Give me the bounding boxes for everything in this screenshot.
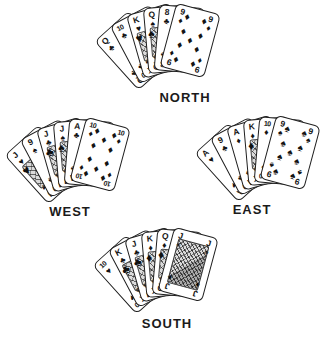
suit-pip: ♦ xyxy=(103,158,111,169)
suit-pip: ♦ xyxy=(186,35,194,46)
suit-pip: ♠ xyxy=(272,166,280,177)
hand-east: A♥A♥♥♥♥9♣9♣♣♣♣A♦A♦♦♦♦K♦K♦♦10♦10♦♦♦♦9♠9♠9… xyxy=(196,112,336,217)
card-index: 10♥ xyxy=(97,258,116,277)
suit-pip: ♦ xyxy=(183,12,191,23)
suit-pip: ♦ xyxy=(172,54,180,65)
hand-west: J♥J♥♥9♠9♠♠♠♠J♣J♣♣J♠J♠♠A♣A♣♣♣♣10♦10♦10♦10… xyxy=(6,114,146,219)
suit-pip: ♠ xyxy=(280,138,288,149)
suit-pip: ♠ xyxy=(297,142,305,153)
hand-label-north: NORTH xyxy=(110,90,260,105)
suit-pip: ♠ xyxy=(283,124,291,135)
suit-pip: ♠ xyxy=(148,27,155,40)
suit-pip: ♦ xyxy=(193,44,201,55)
suit-pip: ♦ xyxy=(82,168,90,179)
suit-pip: ♠ xyxy=(286,147,294,158)
suit-pip: ♦ xyxy=(107,145,115,156)
suit-pip: ♠ xyxy=(276,152,284,163)
card-fan-east: A♥A♥♥♥♥9♣9♣♣♣♣A♦A♦♦♦♦K♦K♦♦10♦10♦♦♦♦9♠9♠9… xyxy=(196,112,336,202)
suit-pip: ♦ xyxy=(176,40,184,51)
hand-north: Q♣Q♣♣♣♣10♣10♣♣♣♣K♥K♥♥Q♠Q♠♠8♣8♣♣♣♣9♦9♦9♦9… xyxy=(96,0,246,107)
card-fan-south: 10♥10♥♥♥♥K♣K♣♣J♣J♣♣K♦K♦♦Q♦Q♦♦J♦J♦J♦J♦ xyxy=(94,224,244,316)
suit-pip: ♦ xyxy=(180,26,188,37)
card-fan-west: J♥J♥♥9♠9♠♠♠♠J♣J♣♣J♠J♠♠A♣A♣♣♣♣10♦10♦10♦10… xyxy=(6,114,146,204)
suit-pip: ♦ xyxy=(158,248,165,260)
card-fan-north: Q♣Q♣♣♣♣10♣10♣♣♣♣K♥K♥♥Q♠Q♠♠8♣8♣♣♣♣9♦9♦9♦9… xyxy=(96,0,246,92)
hand-label-east: EAST xyxy=(182,202,322,217)
suit-pip: ♦ xyxy=(93,126,101,137)
hand-label-south: SOUTH xyxy=(92,316,242,331)
suit-pip: ♦ xyxy=(86,154,94,165)
suit-pip: ♦ xyxy=(93,163,101,174)
suit-pip: ♦ xyxy=(90,140,98,151)
suit-pip: ♦ xyxy=(146,251,153,263)
hand-south: 10♥10♥♥♥♥K♣K♣♣J♣J♣♣K♦K♦♦Q♦Q♦♦J♦J♦J♦J♦ SO… xyxy=(94,224,244,331)
hand-label-west: WEST xyxy=(0,204,140,219)
suit-pip: ♦ xyxy=(248,139,255,151)
suit-pip: ♠ xyxy=(58,141,65,154)
suit-pip: ♦ xyxy=(100,135,108,146)
suit-pip: ♠ xyxy=(293,156,301,167)
suit-pip: ♦ xyxy=(197,31,205,42)
